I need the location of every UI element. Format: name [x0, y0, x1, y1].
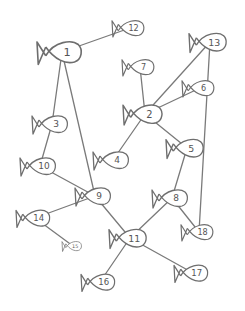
fish-tail-icon: [112, 21, 118, 37]
fish-node-16: 16: [81, 274, 115, 291]
fish-node-2: 2: [123, 105, 162, 125]
fish-label: 17: [191, 268, 202, 278]
fish-label: 2: [146, 109, 152, 120]
fish-node-4: 4: [93, 152, 128, 170]
edge-1-3: [52, 52, 62, 124]
fish-node-14: 14: [16, 210, 50, 227]
fish-node-8: 8: [152, 190, 187, 208]
fish-label: 14: [33, 213, 44, 223]
fish-label: 8: [173, 193, 179, 203]
fish-graph-diagram: 123456789101112131415161718: [0, 0, 245, 311]
fish-label: 16: [98, 277, 109, 287]
fish-node-18: 18: [181, 225, 213, 241]
fish-tail-icon: [75, 188, 82, 206]
fish-node-1: 1: [37, 42, 81, 65]
fish-tail-icon: [152, 190, 159, 208]
fish-label: 15: [72, 243, 78, 249]
fish-tail-icon: [81, 274, 88, 291]
fish-tail-icon: [16, 210, 23, 227]
fish-label: 9: [96, 191, 102, 201]
fish-tail-icon: [109, 230, 116, 249]
fish-tail-icon: [20, 158, 27, 176]
fish-label: 7: [141, 62, 146, 72]
edge-2-13: [145, 42, 210, 114]
fish-label: 1: [63, 46, 70, 59]
fish-label: 18: [197, 227, 207, 237]
fish-node-11: 11: [109, 229, 146, 248]
fish-label: 5: [188, 143, 194, 154]
fish-node-10: 10: [20, 158, 55, 176]
fish-node-13: 13: [189, 33, 226, 52]
fish-label: 3: [53, 119, 59, 129]
fish-label: 11: [128, 233, 140, 244]
fish-node-7: 7: [122, 60, 154, 76]
fish-label: 10: [38, 161, 50, 171]
fish-node-15: 15: [62, 242, 81, 252]
fish-tail-icon: [93, 152, 100, 170]
fish-tail-icon: [174, 265, 181, 282]
fish-label: 12: [128, 23, 138, 33]
fish-tail-icon: [37, 42, 46, 65]
fish-label: 4: [114, 155, 120, 165]
edge-13-18: [199, 42, 210, 232]
fish-node-17: 17: [174, 265, 208, 282]
fish-tail-icon: [181, 225, 187, 241]
fish-node-12: 12: [112, 21, 144, 37]
fish-label: 6: [201, 83, 206, 93]
fish-tail-icon: [122, 60, 128, 76]
fish-node-9: 9: [75, 188, 110, 206]
fish-tail-icon: [62, 242, 66, 252]
fish-tail-icon: [166, 140, 173, 159]
fish-tail-icon: [32, 116, 39, 134]
fish-tail-icon: [123, 105, 131, 125]
fish-label: 13: [208, 37, 220, 48]
fish-tail-icon: [189, 34, 196, 53]
